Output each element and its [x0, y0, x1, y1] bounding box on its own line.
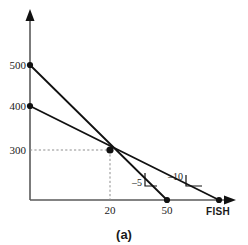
x-tick-label-50: 50: [162, 204, 174, 216]
x-axis-title: FISH: [206, 206, 230, 217]
flat-line-y-intercept-marker: [27, 103, 33, 109]
flat-line-x-intercept-marker: [216, 197, 222, 203]
steep-budget-line-path: [30, 65, 167, 200]
figure-caption: (a): [116, 227, 132, 242]
steep-budget-line: [27, 62, 170, 203]
x-tick-label-20: 20: [105, 204, 117, 216]
figure-panel: 500 400 300 20 50 FISH –5 –10 (a): [0, 0, 248, 245]
y-tick-label-300: 300: [10, 144, 27, 156]
steep-line-x-intercept-marker: [164, 197, 170, 203]
axes-group: [26, 9, 237, 205]
guide-lines-group: [30, 150, 110, 200]
y-tick-label-500: 500: [10, 59, 27, 71]
flat-budget-line: [27, 103, 222, 203]
y-axis-arrow-icon: [26, 9, 35, 21]
intersection-point-marker: [106, 146, 113, 153]
chart-canvas: 500 400 300 20 50 FISH –5 –10 (a): [0, 0, 248, 245]
x-axis-arrow-icon: [224, 196, 236, 205]
slope-annotation-minus-5: –5: [131, 177, 142, 188]
steep-line-y-intercept-marker: [27, 62, 33, 68]
slope-annotation-minus-10: –10: [167, 171, 183, 182]
y-tick-label-400: 400: [10, 100, 27, 112]
